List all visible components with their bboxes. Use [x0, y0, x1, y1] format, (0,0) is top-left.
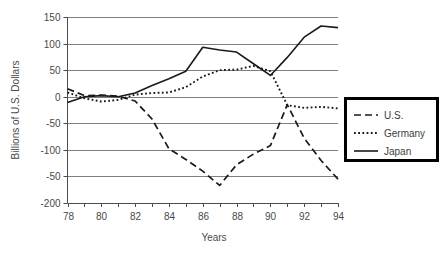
y-tick-label: -50 [46, 171, 61, 182]
legend-label-germany: Germany [384, 128, 425, 139]
y-tick-label: 0 [55, 92, 61, 103]
y-tick-labels: 150100500-50-100-50-200 [40, 12, 60, 209]
y-tick-marks [64, 18, 68, 204]
y-tick-label: 100 [44, 39, 61, 50]
y-tick-label: 50 [49, 65, 61, 76]
x-axis-title: Years [201, 232, 226, 243]
y-tick-label: 150 [44, 12, 61, 23]
x-tick-label: 80 [96, 211, 108, 222]
x-tick-label: 84 [164, 211, 176, 222]
x-tick-label: 88 [232, 211, 244, 222]
legend-label-japan: Japan [384, 146, 411, 157]
y-axis-title: Billions of U.S. Dollars [10, 61, 21, 160]
x-tick-label: 92 [299, 211, 311, 222]
y-tick-label: -100 [40, 145, 60, 156]
x-tick-label: 94 [333, 211, 345, 222]
series-line-germany [68, 66, 339, 109]
series-lines [68, 26, 339, 185]
x-tick-label: 82 [130, 211, 142, 222]
line-chart-figure: 150100500-50-100-50-200 7880828486889092… [0, 0, 442, 263]
x-tick-labels: 788082848688909294 [63, 211, 345, 222]
x-tick-label: 90 [265, 211, 277, 222]
y-tick-label: -200 [40, 198, 60, 209]
chart-svg: 150100500-50-100-50-200 7880828486889092… [0, 0, 442, 263]
legend: U.S.GermanyJapan [346, 99, 438, 161]
y-tick-label: -50 [46, 118, 61, 129]
series-line-u-s [68, 89, 339, 186]
x-tick-label: 78 [63, 211, 75, 222]
x-tick-label: 86 [198, 211, 210, 222]
series-line-japan [68, 26, 339, 103]
legend-label-u-s: U.S. [384, 110, 403, 121]
